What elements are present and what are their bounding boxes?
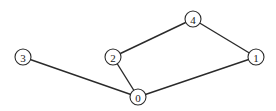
- edge-3-0: [23, 57, 138, 97]
- edge-0-1: [138, 57, 256, 97]
- graph-diagram: 01234: [0, 0, 276, 111]
- edge-2-4: [113, 19, 193, 57]
- node-label: 3: [20, 52, 26, 64]
- node-label: 0: [135, 92, 141, 104]
- node-0: 0: [130, 89, 146, 105]
- node-2: 2: [105, 49, 121, 65]
- node-label: 4: [190, 14, 196, 26]
- node-label: 1: [253, 52, 259, 64]
- node-1: 1: [248, 49, 264, 65]
- node-label: 2: [110, 52, 116, 64]
- node-4: 4: [185, 11, 201, 27]
- edge-4-1: [193, 19, 256, 57]
- edges-layer: [23, 19, 256, 97]
- node-3: 3: [15, 49, 31, 65]
- nodes-layer: 01234: [15, 11, 264, 105]
